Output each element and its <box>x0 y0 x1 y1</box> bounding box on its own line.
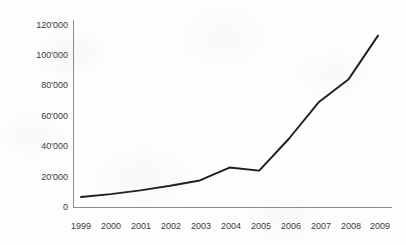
plot-background <box>73 20 378 208</box>
x-tick-labels: 1999 2000 2001 2002 2003 2004 2005 2006 … <box>71 221 390 231</box>
y-tick-labels: 120'000 100'000 80'000 60'000 40'000 20'… <box>36 20 68 212</box>
x-tick-label-2002: 2002 <box>161 221 181 231</box>
chart-page: 120'000 100'000 80'000 60'000 40'000 20'… <box>0 0 406 245</box>
x-tick-label-1999: 1999 <box>71 221 91 231</box>
x-tick-label-2004: 2004 <box>221 221 241 231</box>
x-tick-label-2005: 2005 <box>251 221 271 231</box>
y-tick-label-80000: 80'000 <box>41 80 68 90</box>
y-tick-label-120000: 120'000 <box>36 20 68 30</box>
x-tick-label-2000: 2000 <box>101 221 121 231</box>
x-tick-label-2003: 2003 <box>191 221 211 231</box>
y-tick-label-20000: 20'000 <box>41 172 68 182</box>
x-tick-label-2008: 2008 <box>341 221 361 231</box>
x-tick-label-2009: 2009 <box>370 221 390 231</box>
y-tick-label-0: 0 <box>63 202 68 212</box>
x-tick-label-2007: 2007 <box>311 221 331 231</box>
y-tick-label-60000: 60'000 <box>41 111 68 121</box>
y-tick-label-100000: 100'000 <box>36 50 68 60</box>
x-tick-label-2001: 2001 <box>131 221 151 231</box>
line-chart: 120'000 100'000 80'000 60'000 40'000 20'… <box>0 0 406 245</box>
x-tick-label-2006: 2006 <box>281 221 301 231</box>
y-tick-label-40000: 40'000 <box>41 141 68 151</box>
